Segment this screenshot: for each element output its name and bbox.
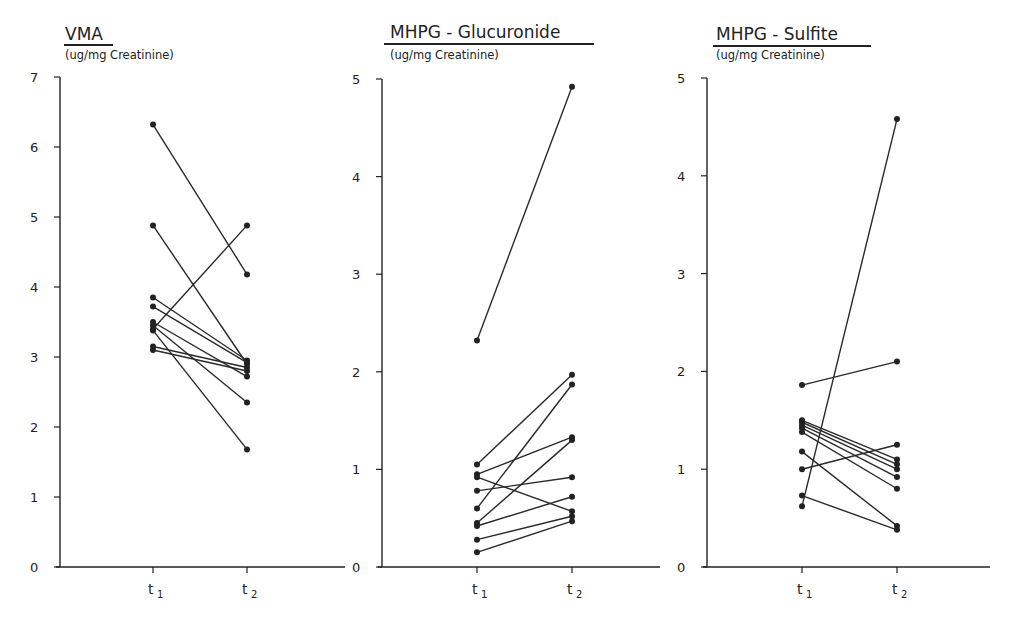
data-point	[474, 523, 480, 529]
data-point	[474, 537, 480, 543]
data-point	[894, 474, 900, 480]
y-tick-label: 1	[30, 490, 38, 505]
x-tick-label: t	[242, 581, 248, 597]
data-point	[799, 429, 805, 435]
x-tick-label: t	[567, 581, 573, 597]
y-tick-label: 0	[352, 560, 360, 575]
data-point	[894, 527, 900, 533]
data-point	[569, 381, 575, 387]
unit-label: (ug/mg Creatinine)	[390, 48, 499, 62]
y-tick-label: 2	[677, 364, 685, 379]
data-point	[894, 442, 900, 448]
y-tick-label: 2	[30, 420, 38, 435]
data-point	[244, 446, 250, 452]
data-point	[799, 449, 805, 455]
y-tick-label: 3	[677, 267, 685, 282]
data-point	[474, 549, 480, 555]
data-point	[894, 116, 900, 122]
data-point	[150, 304, 156, 310]
y-tick-label: 3	[30, 350, 38, 365]
data-point	[244, 368, 250, 374]
data-point	[474, 462, 480, 468]
data-point	[150, 122, 156, 128]
x-tick-label: t	[892, 581, 898, 597]
data-point	[244, 222, 250, 228]
data-point	[569, 437, 575, 443]
series-line	[802, 422, 897, 464]
series-line	[153, 225, 247, 329]
series-line	[153, 125, 247, 275]
y-tick-label: 2	[352, 365, 360, 380]
data-point	[474, 474, 480, 480]
data-point	[569, 84, 575, 90]
y-tick-label: 1	[352, 462, 360, 477]
series-line	[477, 87, 572, 341]
data-point	[150, 222, 156, 228]
panel-vma: VMA (ug/mg Creatinine) 01234567t1t2	[30, 24, 345, 600]
panel-mhpg-sulfite: MHPG - Sulfite (ug/mg Creatinine) 012345…	[677, 24, 990, 600]
series-line	[153, 225, 247, 364]
data-point	[799, 466, 805, 472]
series-line	[153, 307, 247, 363]
unit-label: (ug/mg Creatinine)	[65, 48, 174, 62]
panel-mhpg-glucuronide: MHPG - Glucuronide (ug/mg Creatinine) 01…	[352, 22, 660, 600]
x-tick-label: t	[472, 581, 478, 597]
x-tick-subscript: 1	[157, 589, 163, 600]
y-tick-label: 5	[352, 72, 360, 87]
unit-label: (ug/mg Creatinine)	[716, 48, 825, 62]
x-tick-subscript: 2	[901, 589, 907, 600]
data-point	[244, 271, 250, 277]
data-point	[569, 372, 575, 378]
data-point	[244, 400, 250, 406]
x-tick-label: t	[797, 581, 803, 597]
y-tick-label: 6	[30, 140, 38, 155]
series-line	[153, 330, 247, 449]
data-point	[474, 505, 480, 511]
y-tick-label: 5	[30, 210, 38, 225]
data-point	[150, 327, 156, 333]
x-tick-subscript: 1	[481, 589, 487, 600]
figure: VMA (ug/mg Creatinine) 01234567t1t2 MHPG…	[0, 0, 1017, 622]
data-point	[894, 466, 900, 472]
data-point	[150, 295, 156, 301]
x-tick-label: t	[148, 581, 154, 597]
series-line	[477, 375, 572, 465]
data-point	[244, 374, 250, 380]
panel-title: MHPG - Glucuronide	[390, 22, 560, 42]
x-tick-subscript: 2	[576, 589, 582, 600]
y-tick-label: 1	[677, 462, 685, 477]
y-tick-label: 4	[677, 169, 685, 184]
data-point	[894, 486, 900, 492]
series-line	[477, 384, 572, 508]
data-point	[474, 338, 480, 344]
series-line	[153, 298, 247, 361]
panel-title: MHPG - Sulfite	[716, 24, 838, 44]
data-point	[894, 359, 900, 365]
x-tick-subscript: 1	[806, 589, 812, 600]
series-line	[802, 428, 897, 477]
series-line	[802, 362, 897, 385]
y-tick-label: 3	[352, 267, 360, 282]
y-tick-label: 4	[352, 170, 360, 185]
y-tick-label: 0	[677, 560, 685, 575]
series-line	[477, 437, 572, 474]
x-tick-subscript: 2	[251, 589, 257, 600]
y-tick-label: 7	[30, 70, 38, 85]
data-point	[474, 488, 480, 494]
y-tick-label: 4	[30, 280, 38, 295]
data-point	[569, 518, 575, 524]
data-point	[799, 382, 805, 388]
data-point	[569, 494, 575, 500]
data-point	[150, 347, 156, 353]
y-tick-label: 5	[677, 71, 685, 86]
y-tick-label: 0	[30, 560, 38, 575]
series-line	[153, 350, 247, 371]
series-line	[802, 496, 897, 530]
data-point	[799, 503, 805, 509]
panel-title: VMA	[65, 24, 103, 44]
data-point	[569, 474, 575, 480]
